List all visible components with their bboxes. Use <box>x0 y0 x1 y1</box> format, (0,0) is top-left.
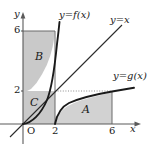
region-c-label: C <box>30 97 38 108</box>
x-tick-label-2: 2 <box>52 126 58 136</box>
g-curve-label: y=g(x) <box>113 71 147 81</box>
y-tick-label-6: 6 <box>14 25 20 35</box>
y-tick-label-2: 2 <box>14 85 20 95</box>
x-axis-label: x <box>130 124 136 134</box>
y-axis-arrow <box>21 12 26 19</box>
region-b-label: B <box>35 51 43 62</box>
region-a-label: A <box>82 104 90 115</box>
figure-container: y x O 6 2 2 6 y=f(x) y=x y=g(x) B C A <box>0 0 159 144</box>
y-axis-label: y <box>14 9 20 19</box>
x-tick-label-6: 6 <box>109 126 115 136</box>
origin-label: O <box>27 126 35 136</box>
identity-line-label: y=x <box>110 15 130 25</box>
f-curve-label: y=f(x) <box>59 10 90 20</box>
